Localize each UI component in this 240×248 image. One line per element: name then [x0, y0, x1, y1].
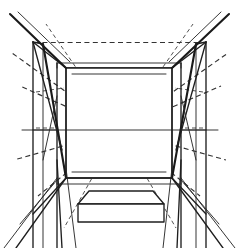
bench-box-group: [78, 191, 164, 222]
perspective-drawing-figure: One-point perspective interior room cons…: [0, 0, 240, 248]
bench-box-top-face: [78, 191, 164, 204]
back-wall-rectangle: [66, 68, 172, 178]
bench-box-front-face: [78, 204, 164, 222]
line-drawing-canvas: [0, 0, 240, 248]
back-wall-group: [66, 68, 172, 178]
